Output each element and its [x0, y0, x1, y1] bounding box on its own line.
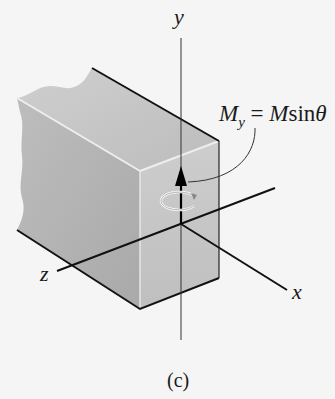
equals-sign: =: [245, 101, 269, 126]
figure-canvas: y z x My = Msinθ (c): [0, 0, 335, 399]
rhs-angle: θ: [315, 101, 326, 126]
rhs-symbol: M: [269, 101, 288, 126]
moment-subscript: y: [238, 114, 245, 130]
figure-caption: (c): [167, 369, 189, 392]
z-axis-label: z: [40, 261, 49, 287]
y-axis-label: y: [174, 4, 184, 30]
rhs-function: sin: [289, 101, 316, 126]
beam-diagram: [0, 0, 335, 399]
moment-equation: My = Msinθ: [219, 101, 327, 127]
x-axis-label: x: [292, 279, 302, 305]
moment-symbol: M: [219, 101, 238, 126]
